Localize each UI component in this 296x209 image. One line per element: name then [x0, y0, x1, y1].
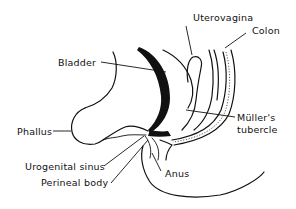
bladder-wall — [137, 47, 170, 133]
phallus-base — [106, 126, 148, 138]
perineal-line-1 — [145, 136, 151, 158]
label-colon: Colon — [252, 25, 280, 36]
label-muller-line2: tubercle — [237, 124, 278, 135]
leader-uterovagina — [186, 26, 192, 55]
anal-region — [160, 140, 172, 160]
leader-anus — [152, 153, 161, 171]
perineal-line-2 — [152, 138, 159, 160]
label-phallus: Phallus — [17, 126, 52, 137]
label-anus: Anus — [165, 168, 189, 179]
label-perineal-body: Perineal body — [41, 177, 108, 188]
label-urogenital-sinus: Urogenital sinus — [25, 161, 105, 172]
anatomy-diagram: Uterovagina Colon Bladder Müller's tuber… — [0, 0, 296, 209]
leader-colon — [225, 33, 246, 48]
label-muller-line1: Müller's — [237, 112, 275, 123]
body-outline — [142, 146, 264, 197]
phallus-outline — [72, 108, 106, 144]
urogenital-sinus-strip — [148, 130, 171, 137]
label-uterovagina: Uterovagina — [193, 12, 253, 23]
label-bladder: Bladder — [58, 57, 96, 68]
mullerian-wall-inner — [214, 50, 218, 100]
